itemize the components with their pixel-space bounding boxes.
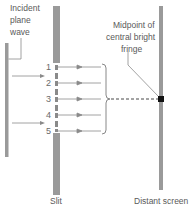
brace — [102, 64, 110, 134]
slit-barrier-upper — [53, 6, 60, 63]
incident-label-line2: plane — [10, 15, 31, 25]
incident-label-line1: Incident — [10, 3, 40, 13]
incident-label-leader — [9, 38, 22, 59]
midpoint-label-line1: Midpoint of — [113, 20, 155, 30]
midpoint-label-leader — [128, 52, 158, 96]
incident-wavefront-bar — [5, 43, 9, 157]
incident-arrow-lower — [12, 121, 45, 125]
source-label-1: 1 — [43, 62, 51, 72]
central-fringe-marker — [158, 96, 164, 102]
midpoint-label-line3: fringe — [121, 44, 142, 54]
source-label-3: 3 — [43, 94, 51, 104]
source-label-2: 2 — [43, 78, 51, 88]
screen-label: Distant screen — [134, 196, 188, 206]
source-label-4: 4 — [43, 110, 51, 120]
slit-label: Slit — [50, 196, 62, 206]
source-rays — [57, 65, 101, 133]
slit-opening-segments — [55, 65, 58, 132]
incident-label-line3: wave — [10, 27, 30, 37]
incident-arrow-upper — [12, 74, 45, 78]
midpoint-label-line2: central bright — [106, 32, 155, 42]
slit-barrier-lower — [53, 133, 60, 195]
source-label-5: 5 — [43, 126, 51, 136]
